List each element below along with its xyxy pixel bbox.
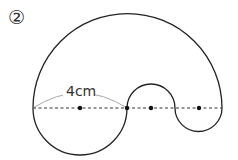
center-dot — [197, 106, 201, 110]
figure-outline — [33, 14, 222, 155]
center-dot — [149, 106, 153, 110]
problem-number: ② — [8, 6, 25, 28]
center-dot — [78, 106, 82, 110]
figure: ② 4cm — [0, 0, 238, 160]
dimension-label: 4cm — [66, 83, 96, 99]
center-dot — [125, 106, 129, 110]
